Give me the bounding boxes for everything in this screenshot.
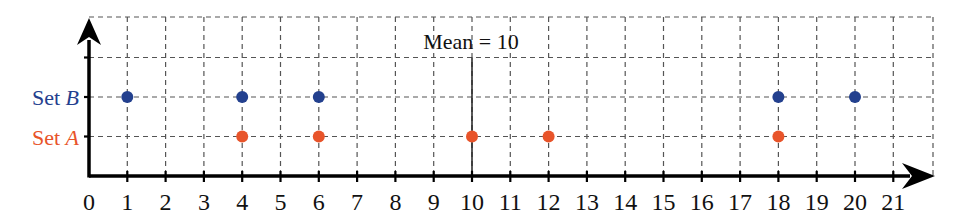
x-tick-label: 10 <box>460 189 484 215</box>
x-tick-label: 11 <box>499 189 522 215</box>
x-tick-label: 2 <box>160 189 172 215</box>
x-tick-label: 0 <box>83 189 95 215</box>
row-label-a: Set A <box>32 125 80 150</box>
row-label-b: Set B <box>32 85 79 110</box>
dot-plot-chart: Mean = 10 012345678910111213141516171819… <box>0 0 961 219</box>
data-point-b <box>236 91 248 103</box>
x-tick-label: 6 <box>313 189 325 215</box>
data-points <box>121 91 861 143</box>
data-point-a <box>313 131 325 143</box>
x-tick-label: 16 <box>690 189 714 215</box>
x-tick-label: 3 <box>198 189 210 215</box>
x-tick-label: 8 <box>389 189 401 215</box>
x-tick-label: 13 <box>575 189 599 215</box>
mean-line: Mean = 10 <box>423 29 519 176</box>
data-point-b <box>121 91 133 103</box>
data-point-a <box>543 131 555 143</box>
x-tick-label: 20 <box>843 189 867 215</box>
data-point-a <box>236 131 248 143</box>
x-tick-label: 7 <box>351 189 363 215</box>
x-tick-label: 4 <box>236 189 248 215</box>
x-tick-label: 15 <box>652 189 676 215</box>
x-tick-label: 12 <box>537 189 561 215</box>
x-tick-label: 14 <box>613 189 637 215</box>
data-point-a <box>466 131 478 143</box>
x-tick-label: 5 <box>275 189 287 215</box>
x-tick-label: 1 <box>121 189 133 215</box>
x-tick-label: 18 <box>766 189 790 215</box>
data-point-a <box>772 131 784 143</box>
x-tick-label: 19 <box>805 189 829 215</box>
data-point-b <box>313 91 325 103</box>
x-tick-label: 21 <box>881 189 905 215</box>
data-point-b <box>772 91 784 103</box>
x-tick-label: 17 <box>728 189 752 215</box>
x-tick-label: 9 <box>428 189 440 215</box>
data-point-b <box>849 91 861 103</box>
mean-label: Mean = 10 <box>423 29 519 54</box>
row-labels: Set ASet B <box>32 85 80 150</box>
